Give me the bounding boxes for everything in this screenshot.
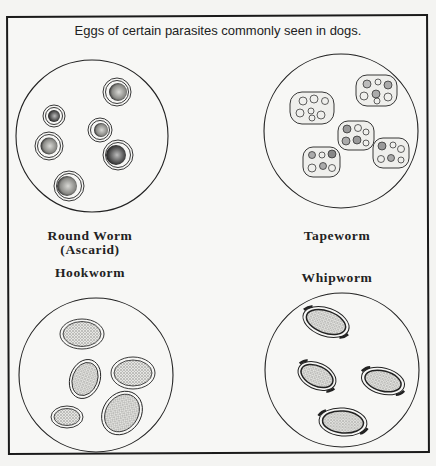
hookworm-egg — [64, 355, 106, 403]
whipworm-egg — [292, 355, 341, 396]
roundworm-egg — [54, 171, 84, 201]
roundworm-egg — [43, 105, 65, 127]
roundworm-egg — [103, 140, 133, 170]
whipworm-egg — [317, 406, 369, 438]
tapeworm-egg-packet — [356, 75, 397, 106]
tapeworm-egg-packet — [373, 138, 409, 168]
hookworm-egg — [60, 319, 104, 349]
whipworm-egg — [298, 300, 355, 343]
roundworm-label: Round Worm (Ascarid) — [40, 229, 140, 257]
roundworm-panel — [16, 60, 168, 212]
whipworm-egg — [357, 362, 408, 399]
hookworm-egg — [51, 406, 83, 428]
tapeworm-panel — [264, 54, 418, 208]
roundworm-egg — [35, 132, 63, 160]
whipworm-label: Whipworm — [287, 271, 387, 285]
hookworm-egg — [93, 383, 151, 442]
tapeworm-egg-packet — [338, 121, 374, 150]
hookworm-egg — [111, 357, 155, 389]
whipworm-panel — [265, 293, 419, 447]
tapeworm-egg-packet — [303, 147, 340, 177]
roundworm-name: Round Worm — [40, 229, 140, 243]
tapeworm-egg-packet — [290, 92, 334, 124]
roundworm-egg — [103, 78, 131, 106]
roundworm-subname: (Ascarid) — [40, 243, 140, 257]
hookworm-panel — [19, 298, 173, 452]
tapeworm-label: Tapeworm — [287, 229, 387, 243]
roundworm-egg — [88, 118, 112, 142]
hookworm-label: Hookworm — [40, 266, 140, 280]
